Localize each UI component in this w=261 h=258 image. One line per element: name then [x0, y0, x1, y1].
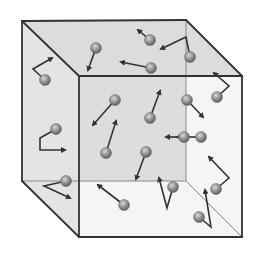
molecule-sphere-icon [196, 132, 207, 143]
molecule-sphere-icon [101, 148, 112, 159]
cube-edge [22, 20, 186, 21]
molecule-sphere-icon [40, 75, 51, 86]
molecule-sphere-icon [61, 176, 72, 187]
molecule-sphere-icon [145, 113, 156, 124]
molecule-sphere-icon [185, 52, 196, 63]
diagram-canvas [0, 0, 261, 258]
molecule-sphere-icon [145, 35, 156, 46]
molecule-sphere-icon [51, 124, 62, 135]
molecule-sphere-icon [212, 92, 223, 103]
molecule-sphere-icon [141, 147, 152, 158]
molecule-sphere-icon [168, 182, 179, 193]
cube-diagram [0, 0, 261, 258]
molecule-sphere-icon [194, 212, 205, 223]
molecule-sphere-icon [211, 184, 222, 195]
molecule-sphere-icon [119, 200, 130, 211]
molecule-sphere-icon [146, 63, 157, 74]
molecule-sphere-icon [91, 43, 102, 54]
molecule-sphere-icon [179, 132, 190, 143]
molecule-sphere-icon [110, 95, 121, 106]
molecule-sphere-icon [182, 95, 193, 106]
